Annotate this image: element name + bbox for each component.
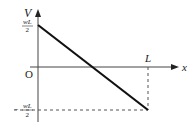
shear-diagram: V x O L wL 2 − wL 2 [0, 0, 191, 130]
x-axis-arrow-icon [171, 64, 179, 70]
bottom-value-denominator: 2 [26, 111, 30, 119]
top-value-denominator: 2 [26, 26, 30, 34]
origin-label: O [25, 68, 33, 80]
bottom-value-label: − wL 2 [14, 102, 33, 119]
length-label: L [144, 52, 151, 64]
bottom-value-sign: − [14, 105, 19, 114]
bottom-value-numerator: wL [23, 102, 32, 110]
x-axis-label: x [181, 61, 187, 73]
top-value-numerator: wL [23, 18, 32, 26]
y-axis-arrow-icon [35, 9, 41, 17]
top-value-label: wL 2 [22, 18, 33, 34]
